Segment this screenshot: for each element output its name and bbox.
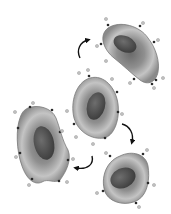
cell-bottom-right <box>95 148 155 208</box>
cell-center <box>73 59 124 145</box>
arrow-to-left <box>76 156 92 168</box>
arrow-center-to-top-right <box>78 40 88 58</box>
arrow-center-to-bottom-right <box>122 124 133 142</box>
cell-left <box>13 101 74 186</box>
cell-cycle-diagram <box>0 0 171 214</box>
cell-top-right <box>95 17 164 89</box>
